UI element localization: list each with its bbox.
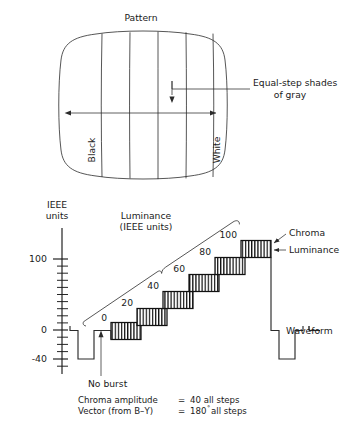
waveform-panel: IEEE units [29,199,340,389]
diagram-svg: Pattern Equal-step shades of gray [0,0,356,434]
no-burst-callout [99,331,104,377]
axis-title-line2: units [46,210,69,221]
step-block-100 [241,241,271,258]
step-label-20: 20 [121,297,133,308]
pattern-label-black: Black [86,137,97,163]
crt-dividers [101,32,214,179]
step-label-100: 100 [219,229,237,240]
note-0-value: 40 all steps [190,395,240,405]
note-1-name: Vector (from B–Y) [78,406,153,416]
ramp-label-line1: Luminance [121,210,172,221]
y-axis-label-0: 0 [41,324,47,335]
y-axis-label-100: 100 [29,253,47,264]
no-burst-label: No burst [88,378,128,389]
step-label-0: 0 [101,312,107,323]
waveform-label: Waveform [286,325,333,336]
pattern-panel: Pattern Equal-step shades of gray [59,12,338,179]
staircase-steps [111,241,271,340]
note-1-value: 180 [190,406,206,416]
step-label-80: 80 [199,246,211,257]
pattern-caption: Pattern [124,12,157,23]
note-0-eq: = [178,395,185,405]
chroma-label: Chroma [289,227,325,238]
step-block-40 [163,292,193,309]
step-label-60: 60 [173,263,185,274]
axis-title-line1: IEEE [47,199,67,210]
equal-step-callout-line1: Equal-step shades [253,77,337,88]
note-0-name: Chroma amplitude [78,395,158,405]
ramp-label-line2: (IEEE units) [120,221,173,232]
note-1-eq: = [178,406,185,416]
step-label-40: 40 [147,280,159,291]
note-1-degree-sign: ° [207,404,210,412]
figure-root: Pattern Equal-step shades of gray [0,0,356,434]
notes-block: Chroma amplitude = 40 all steps Vector (… [78,395,247,416]
waveform-trace [70,258,320,360]
width-arrow-left-head [65,110,71,115]
step-block-60 [189,275,219,292]
chroma-callout [274,234,286,243]
equal-step-callout-line2: of gray [274,89,307,100]
equal-step-callout-leader [169,81,250,103]
step-block-80 [215,258,245,275]
pattern-label-white: White [211,136,222,163]
y-axis-label-minus40: -40 [32,353,47,364]
step-block-20 [137,309,167,326]
luminance-label: Luminance [289,244,340,255]
crt-screen-outline [59,31,228,179]
note-1-value-tail: all steps [211,406,247,416]
